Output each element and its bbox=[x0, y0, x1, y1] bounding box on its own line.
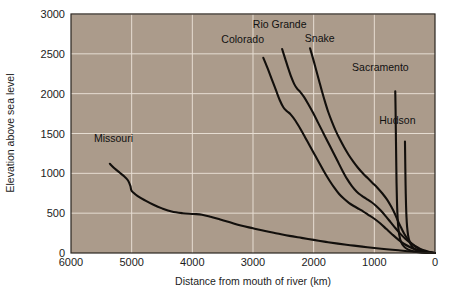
y-tick-label: 0 bbox=[59, 247, 65, 259]
x-tick-label: 5000 bbox=[119, 256, 143, 268]
y-tick-label: 2000 bbox=[41, 88, 65, 100]
y-tick-label: 1500 bbox=[41, 128, 65, 140]
x-tick-label: 4000 bbox=[180, 256, 204, 268]
label-rio-grande: Rio Grande bbox=[253, 18, 307, 30]
x-tick-label: 3000 bbox=[241, 256, 265, 268]
x-axis-title: Distance from mouth of river (km) bbox=[175, 275, 331, 287]
river-profile-chart: 6000500040003000200010000 05001000150020… bbox=[0, 0, 464, 296]
x-tick-label: 0 bbox=[432, 256, 438, 268]
y-axis-title: Elevation above sea level bbox=[4, 73, 16, 192]
label-sacramento: Sacramento bbox=[352, 61, 409, 73]
label-hudson: Hudson bbox=[379, 114, 415, 126]
label-snake: Snake bbox=[305, 32, 335, 44]
label-colorado: Colorado bbox=[221, 33, 264, 45]
x-tick-label: 2000 bbox=[301, 256, 325, 268]
x-tick-label: 1000 bbox=[362, 256, 386, 268]
y-tick-label: 500 bbox=[47, 207, 65, 219]
label-missouri: Missouri bbox=[94, 132, 133, 144]
y-tick-label: 3000 bbox=[41, 8, 65, 20]
y-tick-label: 1000 bbox=[41, 167, 65, 179]
y-tick-label: 2500 bbox=[41, 48, 65, 60]
